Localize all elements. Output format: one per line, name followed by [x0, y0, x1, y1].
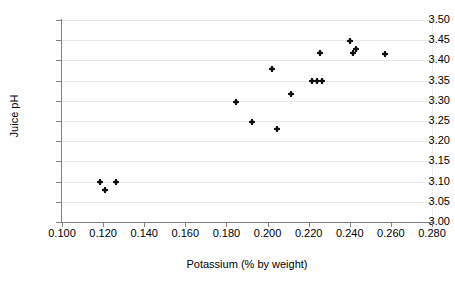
- data-point: [318, 51, 322, 55]
- data-point: [98, 180, 102, 184]
- y-axis-tick-label: 3.30: [396, 95, 450, 106]
- y-axis-tick: [56, 161, 62, 162]
- y-axis-tick-label: 3.50: [396, 14, 450, 25]
- y-axis-tick: [56, 141, 62, 142]
- data-point: [383, 52, 387, 56]
- y-axis-tick: [56, 20, 62, 21]
- y-axis-title: Juice pH: [8, 71, 20, 161]
- y-axis-tick-label: 3.00: [396, 216, 450, 227]
- y-axis-tick: [56, 101, 62, 102]
- x-axis-tick-label: 0.280: [402, 228, 455, 239]
- plot-area: [62, 20, 432, 222]
- y-axis-tick-label: 3.45: [396, 34, 450, 45]
- y-axis-tick: [56, 81, 62, 82]
- y-axis-tick-label: 3.20: [396, 135, 450, 146]
- data-point: [114, 180, 118, 184]
- y-axis-tick: [56, 202, 62, 203]
- y-axis-tick-label: 3.05: [396, 196, 450, 207]
- y-axis-tick: [56, 40, 62, 41]
- y-axis-tick-label: 3.25: [396, 115, 450, 126]
- y-axis-tick-label: 3.35: [396, 75, 450, 86]
- gridline-horizontal: [62, 60, 432, 61]
- gridline-horizontal: [62, 202, 432, 203]
- data-point: [351, 51, 355, 55]
- x-axis-title: Potassium (% by weight): [62, 258, 432, 270]
- data-point: [234, 100, 238, 104]
- gridline-horizontal: [62, 40, 432, 41]
- gridline-horizontal: [62, 161, 432, 162]
- y-axis-tick-label: 3.40: [396, 54, 450, 65]
- gridline-horizontal: [62, 141, 432, 142]
- gridline-horizontal: [62, 81, 432, 82]
- data-point: [289, 92, 293, 96]
- gridline-horizontal: [62, 101, 432, 102]
- gridline-horizontal: [62, 20, 432, 21]
- y-axis-tick-label: 3.10: [396, 176, 450, 187]
- y-axis-tick: [56, 60, 62, 61]
- y-axis-tick-label: 3.15: [396, 155, 450, 166]
- gridline-horizontal: [62, 121, 432, 122]
- x-axis-line: [61, 222, 433, 223]
- y-axis-tick: [56, 121, 62, 122]
- y-axis-tick: [56, 182, 62, 183]
- data-point: [250, 120, 254, 124]
